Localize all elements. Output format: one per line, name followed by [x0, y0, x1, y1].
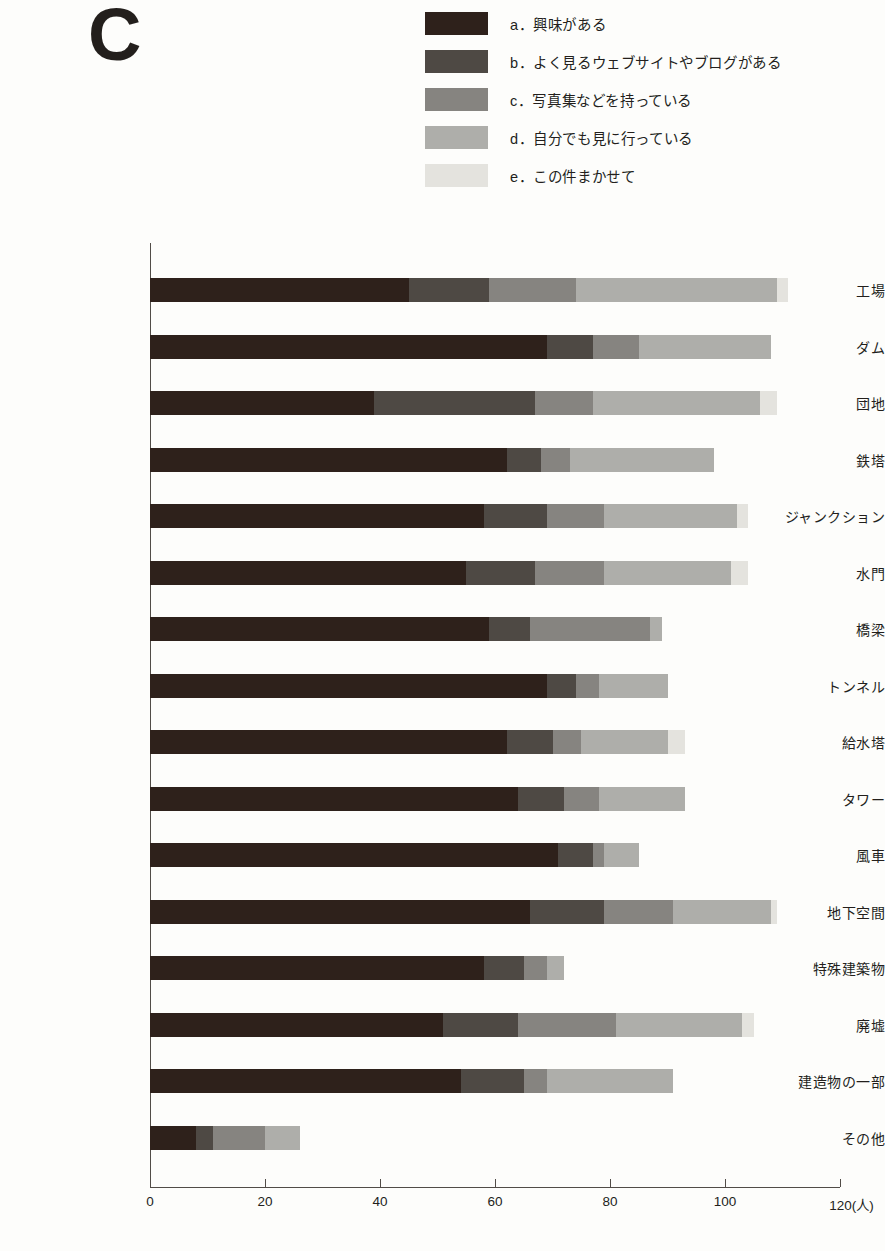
bar-segment-11-0	[150, 900, 530, 924]
category-label-4: ジャンクション	[747, 506, 885, 526]
bar-segment-2-2	[535, 391, 593, 415]
bar-segment-7-3	[599, 674, 668, 698]
bar-segment-9-3	[599, 787, 685, 811]
x-tick-label-40: 40	[372, 1194, 387, 1209]
bar-segment-5-1	[466, 561, 535, 585]
bar-segment-7-2	[576, 674, 599, 698]
x-tick-label-120: 120(人)	[829, 1194, 874, 1214]
x-tick-0	[150, 1179, 151, 1187]
bar-segment-3-3	[570, 448, 714, 472]
x-tick-120	[840, 1179, 841, 1187]
bar-segment-13-1	[443, 1013, 518, 1037]
bar-row-10	[150, 843, 639, 867]
bar-segment-0-0	[150, 278, 409, 302]
bar-segment-10-2	[593, 843, 605, 867]
x-tick-40	[380, 1179, 381, 1187]
bar-segment-9-1	[518, 787, 564, 811]
bar-row-12	[150, 956, 564, 980]
bar-row-4	[150, 504, 748, 528]
bar-segment-1-0	[150, 335, 547, 359]
bar-row-1	[150, 335, 771, 359]
category-label-13: 廃墟	[747, 1015, 885, 1035]
category-label-14: 建造物の一部	[747, 1071, 885, 1091]
x-tick-60	[495, 1179, 496, 1187]
x-tick-label-60: 60	[487, 1194, 502, 1209]
bar-row-13	[150, 1013, 754, 1037]
bar-segment-15-0	[150, 1126, 196, 1150]
bar-segment-0-3	[576, 278, 777, 302]
bar-segment-4-4	[737, 504, 749, 528]
bar-segment-3-1	[507, 448, 542, 472]
bar-segment-11-1	[530, 900, 605, 924]
bar-row-7	[150, 674, 668, 698]
bar-segment-0-2	[489, 278, 575, 302]
x-tick-label-80: 80	[602, 1194, 617, 1209]
category-label-6: 橋梁	[747, 619, 885, 639]
bar-row-14	[150, 1069, 673, 1093]
bar-segment-13-4	[742, 1013, 754, 1037]
bar-segment-1-3	[639, 335, 771, 359]
bar-segment-4-2	[547, 504, 605, 528]
category-label-5: 水門	[747, 563, 885, 583]
bar-segment-6-0	[150, 617, 489, 641]
bar-segment-10-1	[558, 843, 593, 867]
bar-segment-4-0	[150, 504, 484, 528]
bar-segment-3-2	[541, 448, 570, 472]
category-label-9: タワー	[747, 789, 885, 809]
bar-segment-8-4	[668, 730, 685, 754]
bar-segment-0-1	[409, 278, 490, 302]
bar-segment-14-2	[524, 1069, 547, 1093]
bar-segment-8-1	[507, 730, 553, 754]
bar-segment-4-1	[484, 504, 547, 528]
bar-segment-5-2	[535, 561, 604, 585]
bar-segment-11-4	[771, 900, 777, 924]
bar-segment-12-0	[150, 956, 484, 980]
bar-segment-6-3	[650, 617, 662, 641]
bar-segment-15-3	[265, 1126, 300, 1150]
bar-segment-15-1	[196, 1126, 213, 1150]
bar-row-9	[150, 787, 685, 811]
bar-segment-3-0	[150, 448, 507, 472]
bar-segment-2-4	[760, 391, 777, 415]
bar-segment-13-2	[518, 1013, 616, 1037]
bar-segment-5-0	[150, 561, 466, 585]
bar-segment-11-2	[604, 900, 673, 924]
bar-segment-6-1	[489, 617, 529, 641]
bar-segment-12-3	[547, 956, 564, 980]
x-tick-80	[610, 1179, 611, 1187]
x-axis-line	[150, 1187, 840, 1188]
category-label-10: 風車	[747, 845, 885, 865]
bar-segment-9-2	[564, 787, 599, 811]
bar-row-3	[150, 448, 714, 472]
bar-segment-5-3	[604, 561, 731, 585]
bar-segment-10-3	[604, 843, 639, 867]
category-label-12: 特殊建築物	[747, 958, 885, 978]
category-label-7: トンネル	[747, 676, 885, 696]
bar-segment-10-0	[150, 843, 558, 867]
bar-segment-2-1	[374, 391, 535, 415]
bar-segment-9-0	[150, 787, 518, 811]
category-label-8: 給水塔	[747, 732, 885, 752]
x-tick-100	[725, 1179, 726, 1187]
y-axis-line	[150, 243, 151, 1187]
bar-row-15	[150, 1126, 300, 1150]
bar-segment-8-0	[150, 730, 507, 754]
bar-segment-0-4	[777, 278, 789, 302]
bar-segment-8-2	[553, 730, 582, 754]
bar-segment-14-0	[150, 1069, 461, 1093]
bar-row-0	[150, 278, 788, 302]
bar-segment-13-0	[150, 1013, 443, 1037]
bar-segment-12-1	[484, 956, 524, 980]
bar-segment-12-2	[524, 956, 547, 980]
chart-plot-area: 020406080100120(人) 工場ダム団地鉄塔ジャンクション水門橋梁トン…	[0, 0, 885, 1251]
bar-row-2	[150, 391, 777, 415]
bar-segment-6-2	[530, 617, 651, 641]
category-label-15: その他	[747, 1128, 885, 1148]
bar-segment-14-3	[547, 1069, 674, 1093]
bar-segment-2-0	[150, 391, 374, 415]
x-tick-label-100: 100	[714, 1194, 737, 1209]
bar-row-11	[150, 900, 777, 924]
x-tick-label-20: 20	[257, 1194, 272, 1209]
bar-row-6	[150, 617, 662, 641]
bar-segment-11-3	[673, 900, 771, 924]
